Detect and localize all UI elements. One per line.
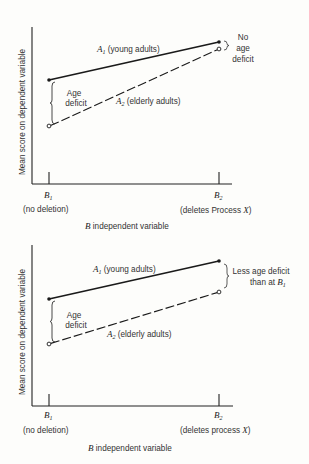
- series-a2-label: A2 (elderly adults): [106, 329, 172, 340]
- series-a1-label: A1 (young adults): [96, 44, 160, 55]
- series-a2-label: A2 (elderly adults): [115, 96, 181, 107]
- category-b1-desc: (no deletion): [23, 205, 69, 214]
- chart-1: Mean score on dependent variable Age def…: [18, 27, 254, 231]
- point-a1-b2: [217, 40, 221, 44]
- point-a1-b1: [47, 78, 51, 82]
- age-deficit-label-2: deficit: [65, 99, 87, 108]
- age-deficit-label-1: Age: [67, 89, 82, 98]
- category-b1-label: B1: [44, 190, 53, 201]
- y-axis-label: Mean score on dependent variable: [18, 48, 27, 175]
- point-a1-b2: [217, 259, 221, 263]
- age-deficit-label-1: Age: [67, 311, 82, 320]
- age-deficit-brace: [50, 301, 55, 342]
- age-deficit-label-2: deficit: [65, 321, 87, 330]
- x-axis-label: B independent variable: [85, 221, 169, 231]
- no-deficit-label-1: No: [238, 33, 249, 42]
- figure: Mean score on dependent variable Age def…: [0, 0, 309, 464]
- point-a2-b2: [217, 47, 221, 51]
- no-deficit-label-2: age: [236, 44, 250, 53]
- no-deficit-brace: [224, 41, 229, 50]
- category-b2-label: B2: [214, 410, 223, 421]
- x-axis-label: B independent variable: [88, 443, 172, 453]
- category-b2-label: B2: [214, 190, 223, 201]
- no-deficit-label-3: deficit: [232, 55, 254, 64]
- point-a1-b1: [47, 297, 51, 301]
- series-a1-label: A1 (young adults): [92, 264, 156, 275]
- point-a2-b2: [217, 290, 221, 294]
- less-deficit-brace: [224, 264, 229, 288]
- less-deficit-label-2: than at B1: [250, 277, 286, 288]
- category-b1-desc: (no deletion): [23, 426, 69, 435]
- chart-2: Mean score on dependent variable Age def…: [18, 245, 290, 453]
- point-a2-b1: [47, 124, 51, 128]
- category-b2-desc: (deletes Process X): [180, 205, 252, 215]
- y-axis-label: Mean score on dependent variable: [18, 268, 27, 395]
- point-a2-b1: [47, 342, 51, 346]
- age-deficit-brace: [50, 82, 55, 124]
- category-b1-label: B1: [44, 410, 53, 421]
- category-b2-desc: (deletes process X): [180, 425, 251, 435]
- less-deficit-label-1: Less age deficit: [233, 267, 291, 276]
